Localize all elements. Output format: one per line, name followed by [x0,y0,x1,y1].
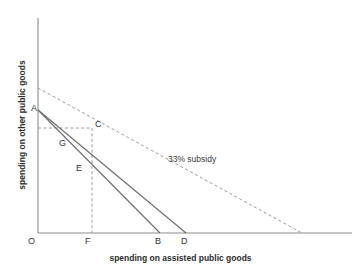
plot-canvas [0,0,361,276]
point-label-C: C [95,120,102,129]
point-label-E: E [76,164,82,173]
economics-budget-line-diagram: A C G E F B D O 33% subsidy spending on … [0,0,361,276]
point-label-F: F [85,237,91,246]
point-label-A: A [31,104,37,113]
subsidy-annotation: 33% subsidy [168,155,216,164]
point-label-G: G [59,139,66,148]
y-axis-label: spending on other public goods [17,25,27,225]
point-label-O: O [28,237,35,246]
point-label-D: D [181,237,188,246]
x-axis-label: spending on assisted public goods [0,253,361,263]
point-label-B: B [155,237,161,246]
